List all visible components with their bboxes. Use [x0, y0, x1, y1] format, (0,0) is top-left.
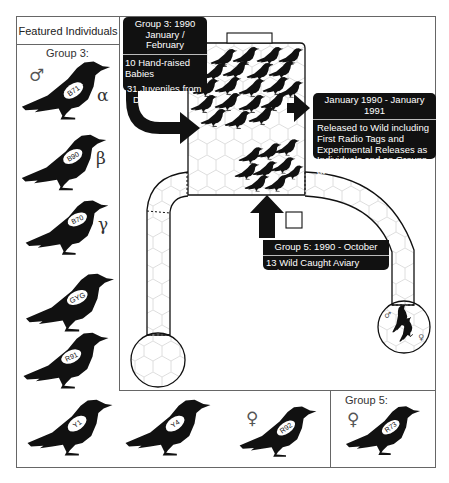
bird-r73: R73 — [344, 404, 422, 458]
entry-box — [286, 212, 302, 228]
release-callout-body: Released to Wild including First Radio T… — [313, 120, 436, 180]
bird-y1: Y1 — [24, 397, 116, 459]
gamma-rank: γ — [98, 216, 108, 233]
group5-callout-title: Group 5: 1990 - October — [263, 240, 389, 256]
bird-r92: R92 — [238, 404, 318, 460]
featured-individuals-title: Featured Individuals — [16, 16, 120, 45]
bird-r91: R91 — [20, 330, 112, 392]
bird-b90: B90 — [20, 130, 108, 196]
group5-arrow-icon — [250, 195, 284, 238]
svg-text:♂: ♂ — [384, 311, 391, 320]
group3-callout: Group 3: 1990 January / February 10 Hand… — [123, 17, 207, 91]
group5-callout: Group 5: 1990 - October 13 Wild Caught A… — [263, 240, 389, 270]
svg-text:♀: ♀ — [418, 333, 424, 342]
left-tunnel — [147, 172, 188, 335]
group5-callout-body: 13 Wild Caught Aviary Vsitors — [263, 256, 389, 281]
release-callout: January 1990 - January 1991 Released to … — [313, 93, 436, 159]
alpha-rank: α — [97, 87, 108, 104]
group3-item-babies: 10 Hand-raised Babies — [125, 58, 205, 79]
beta-rank: β — [96, 150, 106, 167]
male-symbol-icon: ♂ — [29, 67, 44, 84]
bird-y4: Y4 — [122, 397, 214, 459]
group3-item-trap: Donkey Trap — [127, 95, 205, 106]
release-callout-title: January 1990 - January 1991 — [313, 93, 436, 120]
left-enclosure — [131, 333, 185, 387]
bird-gyg: GYG — [24, 270, 116, 336]
aviary-door — [227, 33, 272, 43]
right-tunnel — [305, 172, 414, 305]
group5-divider — [330, 390, 331, 468]
group3-callout-date: January / February — [127, 30, 203, 51]
